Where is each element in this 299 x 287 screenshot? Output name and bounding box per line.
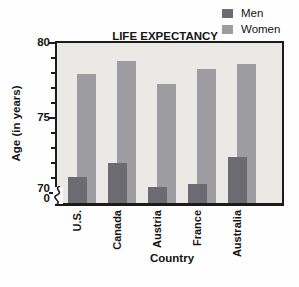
axis-break-icon xyxy=(50,186,66,206)
minor-tick-y79 xyxy=(51,57,57,59)
bar-men-australia xyxy=(228,157,247,203)
x-tick-label-u-s: U.S. xyxy=(70,210,84,270)
major-tick-y75 xyxy=(49,117,57,119)
bar-men-u-s xyxy=(68,177,87,203)
y-axis-label: Age (in years) xyxy=(9,59,24,189)
y-zero-label: 0 xyxy=(28,191,50,206)
legend-swatch-women-icon xyxy=(222,25,233,34)
bar-men-france xyxy=(188,184,207,203)
minor-tick-y76 xyxy=(51,102,57,104)
minor-tick-y73 xyxy=(51,147,57,149)
bar-women-france xyxy=(197,69,216,203)
legend-item-women: Women xyxy=(222,21,280,37)
minor-tick-y74 xyxy=(51,132,57,134)
y-tick-label-75: 75 xyxy=(28,110,50,125)
legend: MenWomen xyxy=(222,5,280,37)
bar-men-canada xyxy=(108,163,127,203)
y-tick-label-80: 80 xyxy=(28,35,50,50)
minor-tick-y77 xyxy=(51,87,57,89)
minor-tick-y78 xyxy=(51,72,57,74)
bar-women-austria xyxy=(157,84,176,203)
x-axis-label: Country xyxy=(102,252,242,264)
legend-swatch-men-icon xyxy=(222,9,233,18)
minor-tick-y72 xyxy=(51,162,57,164)
legend-label: Men xyxy=(241,5,263,21)
bar-men-austria xyxy=(148,187,167,203)
plot-area xyxy=(55,41,284,206)
minor-tick-y71 xyxy=(51,177,57,179)
legend-label: Women xyxy=(241,21,280,37)
life-expectancy-chart: LIFE EXPECTANCY MenWomen Age (in years) … xyxy=(0,0,299,287)
major-tick-y80 xyxy=(49,42,57,44)
legend-item-men: Men xyxy=(222,5,280,21)
